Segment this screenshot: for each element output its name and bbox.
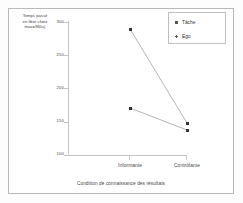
- y-tick-group-100: 100: [40, 151, 64, 157]
- chart-figure: Temps passé en libre choix max=360s) 300…: [0, 0, 243, 203]
- data-point-ego-controlante: [186, 129, 189, 132]
- x-axis-line: [68, 155, 187, 156]
- x-tick-mark-controlante: [186, 155, 187, 160]
- legend-item-tache[interactable]: Tâche: [175, 18, 195, 26]
- y-tick-label-100: 100: [42, 151, 64, 156]
- y-tick-label-250: 250: [42, 52, 64, 57]
- plus-marker-icon: [175, 35, 178, 38]
- legend-label-ego: Ego: [182, 34, 191, 39]
- y-tick-mark-250: [64, 55, 69, 56]
- y-tick-group-200: 200: [40, 85, 64, 91]
- y-tick-group-150: 150: [40, 118, 64, 124]
- x-axis-title: Condition de connaissance des résultats: [8, 181, 234, 186]
- legend-item-ego[interactable]: Ego: [175, 32, 191, 40]
- data-point-tache-controlante: [186, 122, 189, 125]
- y-tick-label-200: 200: [42, 85, 64, 90]
- x-tick-label-controlante: Contrôlante: [161, 163, 213, 168]
- chart-legend: Tâche Ego: [168, 12, 226, 44]
- y-tick-mark-100: [64, 155, 69, 156]
- y-tick-label-150: 150: [42, 118, 64, 123]
- y-tick-mark-200: [64, 88, 69, 89]
- y-tick-mark-150: [64, 122, 69, 123]
- data-point-ego-informante: [129, 107, 132, 110]
- y-axis-label-line-3: max=360s): [13, 24, 57, 30]
- y-tick-mark-300: [64, 22, 69, 23]
- legend-label-tache: Tâche: [182, 20, 195, 25]
- x-tick-label-informante: Informante: [104, 163, 156, 168]
- data-point-tache-informante: [129, 28, 132, 31]
- y-tick-group-300: 300: [40, 19, 64, 25]
- square-marker-icon: [175, 21, 178, 24]
- y-tick-label-300: 300: [42, 19, 64, 24]
- y-tick-group-250: 250: [40, 52, 64, 58]
- x-tick-mark-informante: [129, 155, 130, 160]
